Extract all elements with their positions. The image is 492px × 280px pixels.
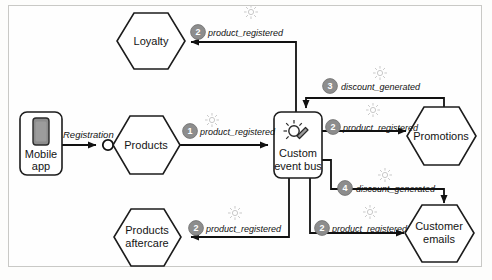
step-badge-number: 2 bbox=[195, 27, 200, 37]
node-products-aftercare-label-1: Products bbox=[125, 224, 169, 236]
edge-label-product-registered: product_registered bbox=[331, 224, 408, 234]
edge-annot-promotions-to-bus: 3 discount_generated bbox=[323, 66, 421, 93]
node-promotions-label: Promotions bbox=[413, 130, 469, 142]
node-customer-emails[interactable]: Customer emails bbox=[405, 205, 474, 262]
edge-annot-bus-to-aftercare: 2 product_registered bbox=[189, 206, 282, 235]
step-badge-number: 2 bbox=[319, 223, 324, 233]
mobile-phone-icon bbox=[33, 118, 49, 145]
edge-annot-products-to-bus: 1 product_registered bbox=[183, 113, 276, 138]
diagram-root: Loyalty Products Products aftercare Mobi… bbox=[0, 0, 492, 280]
node-products[interactable]: Products bbox=[113, 116, 180, 174]
step-badge-number: 4 bbox=[342, 183, 347, 193]
node-products-aftercare-label-2: aftercare bbox=[125, 237, 168, 249]
sparkle-icon bbox=[228, 206, 242, 220]
sparkle-icon bbox=[366, 103, 380, 117]
edge-label-discount-generated: discount_generated bbox=[356, 184, 436, 194]
edge-annot-bus-to-emails-discount: 4 discount_generated bbox=[338, 168, 436, 195]
edge-bus-to-emails-discount bbox=[322, 160, 444, 203]
node-mobile-app[interactable]: Mobile app bbox=[20, 112, 62, 175]
node-promotions[interactable]: Promotions bbox=[407, 107, 476, 165]
node-products-label: Products bbox=[124, 139, 168, 151]
node-customer-emails-label-2: emails bbox=[423, 233, 455, 245]
sparkle-icon bbox=[373, 66, 387, 80]
diagram-canvas: Loyalty Products Products aftercare Mobi… bbox=[0, 0, 492, 280]
edge-label-product-registered: product_registered bbox=[342, 123, 419, 133]
port-circle-icon bbox=[103, 140, 113, 150]
edge-label-product-registered: product_registered bbox=[205, 224, 282, 234]
edge-annot-bus-to-loyalty: 2 product_registered bbox=[191, 5, 284, 39]
step-badge-number: 1 bbox=[187, 126, 192, 136]
node-loyalty[interactable]: Loyalty bbox=[117, 13, 185, 69]
edge-label-discount-generated: discount_generated bbox=[341, 82, 421, 92]
node-mobile-app-label-1: Mobile bbox=[25, 148, 57, 160]
edge-registration bbox=[62, 140, 113, 150]
node-loyalty-label: Loyalty bbox=[134, 35, 169, 47]
node-custom-event-bus-label-2: event bus bbox=[274, 160, 322, 172]
node-custom-event-bus-label-1: Custom bbox=[279, 147, 317, 159]
step-badge-number: 2 bbox=[193, 223, 198, 233]
edge-label-product-registered: product_registered bbox=[199, 127, 276, 137]
edge-annot-bus-to-emails: 2 product_registered bbox=[315, 205, 408, 235]
edge-label-registration: Registration bbox=[63, 129, 114, 140]
node-custom-event-bus[interactable]: Custom event bus bbox=[274, 112, 322, 178]
sparkle-icon bbox=[363, 205, 377, 219]
node-customer-emails-label-1: Customer bbox=[415, 220, 463, 232]
step-badge-number: 2 bbox=[330, 122, 335, 132]
edge-annot-bus-to-promotions: 2 product_registered bbox=[326, 103, 419, 134]
edge-label-product-registered: product_registered bbox=[207, 28, 284, 38]
step-badge-number: 3 bbox=[327, 81, 332, 91]
sparkle-icon bbox=[244, 5, 258, 19]
edge-promotions-to-bus bbox=[306, 98, 444, 108]
edge-bus-to-loyalty bbox=[191, 42, 296, 112]
sparkle-icon bbox=[378, 168, 392, 182]
node-products-aftercare[interactable]: Products aftercare bbox=[114, 209, 181, 266]
node-mobile-app-label-2: app bbox=[32, 160, 50, 172]
sparkle-icon bbox=[205, 113, 219, 127]
